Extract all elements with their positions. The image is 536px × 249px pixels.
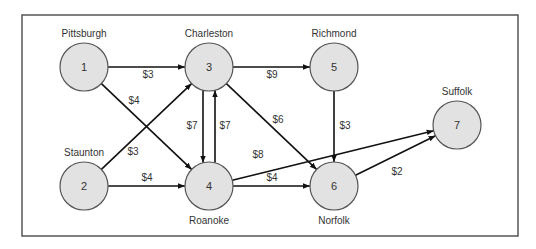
edge-cost-label: $4 xyxy=(128,95,140,106)
node-number: 6 xyxy=(331,180,337,192)
node-number: 7 xyxy=(454,119,460,131)
node-city-label: Norfolk xyxy=(318,215,351,226)
node-city-label: Staunton xyxy=(64,147,104,158)
network-diagram: $3$4$3$4$7$7$9$6$8$4$3$2 1Pittsburgh2Sta… xyxy=(0,0,536,249)
node-city-label: Charleston xyxy=(185,28,233,39)
node-richmond: 5Richmond xyxy=(310,28,358,91)
edge-cost-label: $8 xyxy=(252,149,264,160)
node-norfolk: 6Norfolk xyxy=(310,162,358,226)
node-number: 4 xyxy=(206,180,212,192)
node-city-label: Richmond xyxy=(311,28,356,39)
edge-cost-label: $7 xyxy=(219,120,231,131)
node-city-label: Roanoke xyxy=(189,215,229,226)
edge-cost-label: $7 xyxy=(186,120,198,131)
node-number: 2 xyxy=(81,180,87,192)
edge-cost-label: $4 xyxy=(266,172,278,183)
edge-cost-label: $3 xyxy=(339,120,351,131)
node-number: 3 xyxy=(206,61,212,73)
edge-cost-label: $6 xyxy=(272,114,284,125)
node-suffolk: 7Suffolk xyxy=(433,86,481,149)
node-charleston: 3Charleston xyxy=(185,28,233,91)
edge-cost-label: $4 xyxy=(141,172,153,183)
node-roanoke: 4Roanoke xyxy=(185,162,233,226)
edge-cost-label: $3 xyxy=(127,146,139,157)
node-pittsburgh: 1Pittsburgh xyxy=(60,28,108,91)
edge-cost-label: $9 xyxy=(266,69,278,80)
node-staunton: 2Staunton xyxy=(60,147,108,210)
node-city-label: Suffolk xyxy=(442,86,473,97)
node-number: 1 xyxy=(81,61,87,73)
edge-arrow-3-to-6 xyxy=(226,84,316,170)
node-number: 5 xyxy=(331,61,337,73)
node-city-label: Pittsburgh xyxy=(61,28,106,39)
nodes-group: 1Pittsburgh2Staunton3Charleston4Roanoke5… xyxy=(60,28,481,226)
edge-cost-label: $2 xyxy=(391,166,403,177)
edge-cost-label: $3 xyxy=(142,69,154,80)
edges-group: $3$4$3$4$7$7$9$6$8$4$3$2 xyxy=(101,67,435,186)
